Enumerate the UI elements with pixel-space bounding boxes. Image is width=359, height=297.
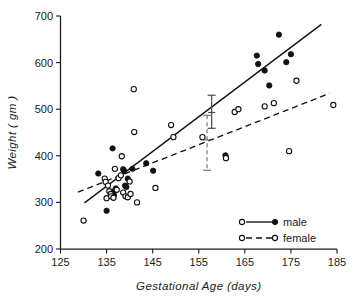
axes: 200300400500600700125135145155165175185 bbox=[35, 10, 347, 268]
data-point-female bbox=[131, 87, 136, 92]
data-point-female bbox=[114, 187, 119, 192]
data-point-female bbox=[153, 185, 158, 190]
y-tick-label-700: 700 bbox=[35, 10, 53, 22]
data-point-female bbox=[81, 218, 86, 223]
data-point-male bbox=[255, 61, 260, 66]
data-point-female bbox=[169, 122, 174, 127]
data-point-female bbox=[127, 179, 132, 184]
error-bars bbox=[203, 95, 216, 170]
data-point-male bbox=[124, 184, 129, 189]
y-tick-label-500: 500 bbox=[35, 103, 53, 115]
y-tick-label-600: 600 bbox=[35, 57, 53, 69]
data-point-female bbox=[223, 156, 228, 161]
axis-labels: Gestational Age (days)Weight ( gm ) bbox=[6, 95, 261, 292]
legend-marker-left-male bbox=[239, 219, 244, 224]
data-point-male bbox=[262, 68, 267, 73]
data-point-female bbox=[294, 78, 299, 83]
data-point-male bbox=[284, 59, 289, 64]
data-point-male bbox=[104, 208, 109, 213]
y-tick-label-200: 200 bbox=[35, 243, 53, 255]
legend-marker-right-female bbox=[272, 235, 277, 240]
data-point-female bbox=[112, 166, 117, 171]
x-tick-label-155: 155 bbox=[190, 256, 208, 268]
legend-label-male: male bbox=[283, 216, 307, 228]
data-point-female bbox=[128, 191, 133, 196]
data-point-female bbox=[111, 195, 116, 200]
y-axis-title: Weight ( gm ) bbox=[6, 95, 18, 169]
x-axis-title: Gestational Age (days) bbox=[136, 280, 261, 292]
legend-label-female: female bbox=[283, 232, 316, 244]
data-point-female bbox=[331, 102, 336, 107]
data-point-male bbox=[276, 32, 281, 37]
data-points bbox=[81, 32, 336, 223]
regression-lines bbox=[78, 24, 330, 202]
data-point-male bbox=[150, 168, 155, 173]
x-tick-label-175: 175 bbox=[282, 256, 300, 268]
data-point-male bbox=[110, 146, 115, 151]
data-point-male bbox=[254, 53, 259, 58]
data-point-female bbox=[171, 135, 176, 140]
data-point-male bbox=[130, 166, 135, 171]
data-point-female bbox=[105, 183, 110, 188]
x-tick-label-145: 145 bbox=[143, 256, 161, 268]
scatter-plot-figure: 200300400500600700125135145155165175185 … bbox=[0, 0, 359, 297]
data-point-male bbox=[288, 52, 293, 57]
data-point-female bbox=[286, 149, 291, 154]
data-point-female bbox=[271, 101, 276, 106]
chart-canvas: 200300400500600700125135145155165175185 … bbox=[0, 0, 359, 297]
data-point-female bbox=[200, 135, 205, 140]
x-tick-label-125: 125 bbox=[51, 256, 69, 268]
legend-marker-left-female bbox=[239, 235, 244, 240]
data-point-female bbox=[134, 200, 139, 205]
x-tick-label-135: 135 bbox=[97, 256, 115, 268]
legend: malefemale bbox=[239, 216, 316, 244]
data-point-female bbox=[132, 129, 137, 134]
data-point-male bbox=[144, 161, 149, 166]
data-point-female bbox=[236, 107, 241, 112]
data-point-female bbox=[119, 154, 124, 159]
x-tick-label-185: 185 bbox=[328, 256, 346, 268]
data-point-male bbox=[267, 83, 272, 88]
y-tick-label-400: 400 bbox=[35, 150, 53, 162]
y-tick-label-300: 300 bbox=[35, 196, 53, 208]
axis-spine bbox=[61, 16, 338, 249]
data-point-male bbox=[96, 171, 101, 176]
x-tick-label-165: 165 bbox=[236, 256, 254, 268]
legend-marker-right-male bbox=[272, 219, 277, 224]
data-point-female bbox=[118, 173, 123, 178]
data-point-female bbox=[262, 104, 267, 109]
